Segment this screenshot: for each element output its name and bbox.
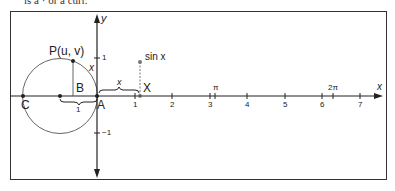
y-axis-label: y [101, 13, 107, 24]
y-tick-1: 1 [102, 54, 106, 62]
label-A: A [97, 99, 105, 111]
x-tick-6: 6 [320, 101, 324, 109]
y-tick-neg1: −1 [102, 129, 111, 137]
label-sin-x: sin x [145, 52, 166, 62]
label-X: X [143, 82, 151, 94]
label-arc-x: x [89, 63, 94, 73]
label-brace-1: 1 [76, 106, 80, 114]
point-sin-x [138, 60, 142, 64]
label-brace-x: x [117, 78, 122, 87]
label-B: B [76, 82, 84, 94]
x-tick-7: 7 [358, 101, 362, 109]
x-tick-4: 4 [245, 101, 249, 109]
y-axis-arrow-down-icon [94, 169, 100, 178]
x-axis-arrow-icon [374, 93, 383, 99]
brace-x [99, 87, 139, 93]
y-axis-arrow-up-icon [94, 14, 100, 23]
point-P [71, 59, 75, 63]
label-C: C [21, 99, 30, 111]
x-tick-pi: π [213, 84, 219, 92]
label-P: P(u, v) [49, 45, 84, 57]
x-tick-3: 3 [208, 101, 212, 109]
x-tick-5: 5 [283, 101, 287, 109]
x-tick-1: 1 [133, 101, 137, 109]
x-tick-2: 2 [170, 101, 174, 109]
x-axis-label: x [377, 82, 382, 92]
point-X [139, 95, 142, 98]
x-tick-2pi: 2π [328, 84, 338, 92]
unit-circle-sine-diagram [0, 0, 395, 191]
point-center [58, 94, 62, 98]
